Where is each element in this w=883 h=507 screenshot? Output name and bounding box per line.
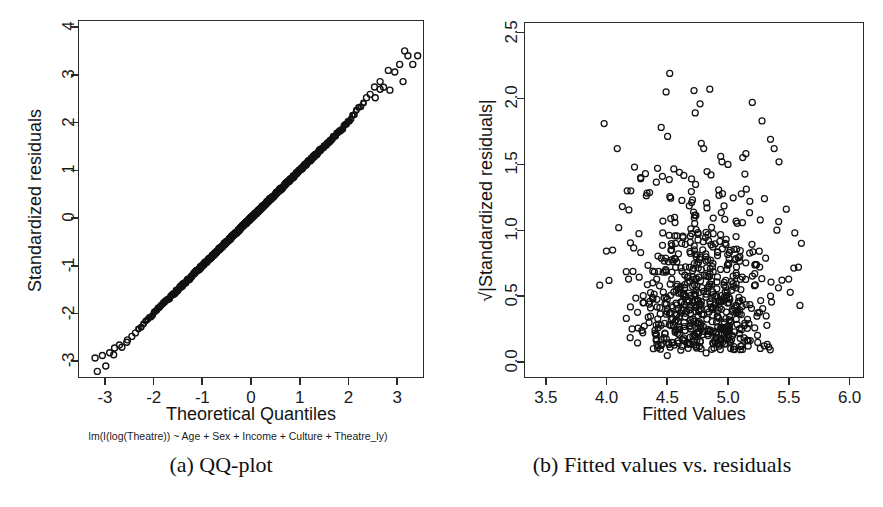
- qq-plot-frame: [78, 20, 424, 378]
- figure-root: -3-2-101234-3-2-10123 Standardized resid…: [0, 0, 883, 507]
- y-tick-label: -3: [59, 337, 79, 383]
- x-tick: [727, 378, 729, 385]
- x-tick: [606, 378, 608, 385]
- x-tick: [104, 378, 106, 385]
- qq-plot-caption: (a) QQ-plot: [0, 452, 442, 478]
- x-tick: [299, 378, 301, 385]
- y-tick-label: 4: [59, 3, 79, 49]
- scale-location-xlabel: Fitted Values: [524, 404, 864, 425]
- panel-fitted-vs-residuals: 0.00.51.01.52.02.53.54.04.55.05.56.0 √|S…: [441, 0, 883, 507]
- x-tick: [849, 378, 851, 385]
- y-tick-label: 0: [59, 194, 79, 240]
- x-tick: [153, 378, 155, 385]
- y-tick-label: 2: [59, 99, 79, 145]
- qq-plot-xlabel: Theoretical Quantiles: [78, 404, 424, 425]
- scale-location-caption: (b) Fitted values vs. residuals: [441, 452, 883, 478]
- x-tick: [788, 378, 790, 385]
- scale-location-ylabel: √|Standardized residuals|: [476, 61, 497, 341]
- y-tick-label: 1.0: [502, 206, 522, 252]
- y-tick-label: -1: [59, 242, 79, 288]
- y-tick-label: 1: [59, 146, 79, 192]
- x-tick: [201, 378, 203, 385]
- y-tick-label: -2: [59, 290, 79, 336]
- y-tick-label: 1.5: [502, 140, 522, 186]
- y-tick-label: 2.0: [502, 74, 522, 120]
- scale-location-frame: [524, 22, 864, 378]
- qq-plot-subtitle: lm(I(log(Theatre)) ~ Age + Sex + Income …: [28, 430, 448, 442]
- y-tick-label: 2.5: [502, 9, 522, 55]
- x-tick: [666, 378, 668, 385]
- qq-plot-ylabel: Standardized residuals: [25, 81, 46, 321]
- y-tick-label: 0.0: [502, 338, 522, 384]
- y-tick-label: 0.5: [502, 272, 522, 318]
- y-tick-label: 3: [59, 51, 79, 97]
- x-tick: [348, 378, 350, 385]
- x-tick: [396, 378, 398, 385]
- x-tick: [545, 378, 547, 385]
- panel-qq-plot: -3-2-101234-3-2-10123 Standardized resid…: [0, 0, 442, 507]
- x-tick: [250, 378, 252, 385]
